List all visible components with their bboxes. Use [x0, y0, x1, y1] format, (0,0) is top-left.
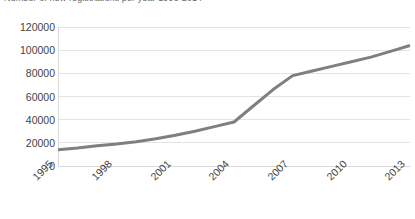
x-tick-label: 2001	[148, 157, 173, 182]
x-tick-label: 2007	[265, 157, 290, 182]
line-chart: Number of new registrations per year 199…	[0, 0, 415, 219]
x-tick-label: 2013	[382, 157, 407, 182]
x-tick-label: 2010	[324, 157, 349, 182]
x-axis: 1995199820012004200720102013	[0, 0, 415, 219]
x-tick-label: 2004	[206, 157, 231, 182]
x-tick-label: 1998	[89, 157, 114, 182]
x-tick-label: 1995	[30, 157, 55, 182]
